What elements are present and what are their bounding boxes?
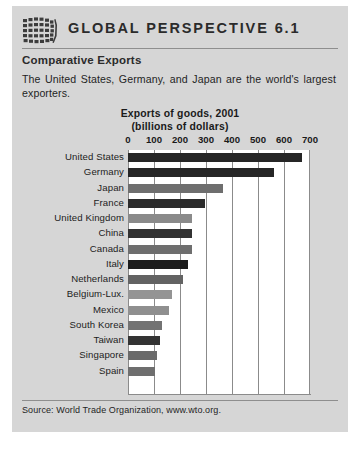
banner-header: GLOBAL PERSPECTIVE 6.1	[22, 14, 338, 48]
x-tick-label: 100	[146, 134, 162, 145]
page-title: GLOBAL PERSPECTIVE 6.1	[68, 20, 301, 36]
bar-category-label: Germany	[84, 166, 124, 177]
bar-category-label: United Kingdom	[54, 212, 124, 223]
bar-row: Belgium-Lux.	[12, 287, 348, 302]
chart-title: Exports of goods, 2001 (billions of doll…	[12, 107, 348, 133]
bar-row: Japan	[12, 181, 348, 196]
bar-row: Italy	[12, 257, 348, 272]
bar-rows: United StatesGermanyJapanFranceUnited Ki…	[12, 150, 348, 394]
bar	[128, 321, 162, 330]
bar-row: United Kingdom	[12, 211, 348, 226]
bar	[128, 199, 205, 208]
bar-row: United States	[12, 150, 348, 165]
bar-row: Canada	[12, 242, 348, 257]
bar-row: France	[12, 196, 348, 211]
bar	[128, 245, 192, 254]
section-subtitle: Comparative Exports	[22, 54, 141, 66]
x-tick-label: 300	[198, 134, 214, 145]
chart-title-line1: Exports of goods, 2001	[121, 108, 240, 119]
bar-row: China	[12, 226, 348, 241]
bar-category-label: South Korea	[70, 319, 124, 330]
bar	[128, 260, 188, 269]
bar-row: Spain	[12, 364, 348, 379]
bar	[128, 168, 274, 177]
bar-category-label: Mexico	[93, 304, 124, 315]
global-perspective-panel: GLOBAL PERSPECTIVE 6.1 Comparative Expor…	[12, 6, 348, 432]
bar-row: Germany	[12, 165, 348, 180]
source-note: Source: World Trade Organization, www.wt…	[22, 405, 221, 415]
bar-category-label: Netherlands	[71, 273, 124, 284]
bar	[128, 336, 160, 345]
x-tick-label: 500	[250, 134, 266, 145]
bar	[128, 214, 192, 223]
bar-category-label: Spain	[99, 365, 124, 376]
bar	[128, 153, 302, 162]
x-tick-label: 200	[172, 134, 188, 145]
x-tick-label: 400	[224, 134, 240, 145]
bar-row: South Korea	[12, 318, 348, 333]
bar	[128, 290, 172, 299]
intro-paragraph: The United States, Germany, and Japan ar…	[22, 72, 336, 100]
x-tick-label: 700	[302, 134, 318, 145]
x-tick-label: 0	[125, 134, 130, 145]
bar	[128, 229, 192, 238]
bar	[128, 184, 223, 193]
bar-category-label: Canada	[90, 243, 124, 254]
bar-row: Singapore	[12, 348, 348, 363]
bar-row: Taiwan	[12, 333, 348, 348]
bar-category-label: United States	[65, 151, 124, 162]
bar-category-label: Belgium-Lux.	[67, 288, 124, 299]
header-divider	[22, 48, 338, 49]
bar-category-label: France	[94, 197, 124, 208]
source-divider	[22, 400, 338, 401]
bar-category-label: Japan	[97, 182, 124, 193]
bar	[128, 367, 155, 376]
x-axis-ticklabels: 0100200300400500600700	[12, 134, 348, 148]
bar-category-label: China	[98, 227, 124, 238]
axis-baseline	[128, 394, 311, 395]
bar	[128, 275, 183, 284]
chart-title-line2: (billions of dollars)	[12, 120, 348, 133]
bar-category-label: Taiwan	[94, 334, 124, 345]
bar	[128, 306, 169, 315]
bar-category-label: Singapore	[79, 349, 124, 360]
bar	[128, 351, 157, 360]
bar-category-label: Italy	[106, 258, 124, 269]
globe-grid-icon	[22, 16, 58, 46]
x-tick-label: 600	[276, 134, 292, 145]
exports-bar-chart: 0100200300400500600700 United StatesGerm…	[12, 134, 348, 402]
bar-row: Mexico	[12, 303, 348, 318]
bar-row: Netherlands	[12, 272, 348, 287]
